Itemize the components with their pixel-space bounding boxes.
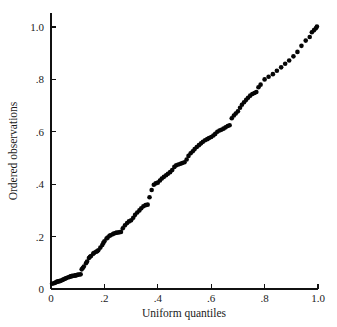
y-tick-label: .2 [36, 231, 44, 243]
data-point [266, 74, 271, 79]
plot-axes [51, 13, 318, 289]
qq-plot-figure: 0.2.4.6.81.0 0.2.4.6.81.0 Uniform quanti… [0, 0, 337, 327]
y-axis-ticks [51, 27, 56, 237]
data-point [279, 65, 284, 70]
x-axis-title: Uniform quantiles [142, 307, 227, 320]
data-point [291, 54, 296, 59]
data-point [315, 24, 320, 29]
data-point [147, 195, 152, 200]
data-point [295, 50, 300, 55]
y-tick-label: .4 [36, 178, 45, 190]
y-axis-title: Ordered observations [7, 101, 19, 200]
data-point [78, 272, 83, 277]
y-tick-label: 0 [39, 283, 45, 295]
x-axis-ticks [51, 284, 318, 289]
x-tick-label: 1.0 [311, 292, 325, 304]
y-tick-label: 1.0 [30, 21, 44, 33]
data-point [145, 202, 150, 207]
x-tick-label: .2 [100, 292, 108, 304]
y-axis-tick-labels: 0.2.4.6.81.0 [30, 21, 44, 295]
data-point [258, 82, 263, 87]
x-tick-label: .6 [207, 292, 216, 304]
data-point [271, 72, 276, 77]
y-tick-label: .8 [36, 73, 45, 85]
data-point [275, 68, 280, 73]
x-tick-label: .4 [154, 292, 163, 304]
x-tick-label: .8 [260, 292, 269, 304]
data-point [303, 38, 308, 43]
data-point [283, 61, 288, 66]
data-point [262, 77, 267, 82]
data-point [254, 90, 259, 95]
data-point [299, 44, 304, 49]
data-point [287, 58, 292, 63]
data-point [307, 35, 312, 40]
scatter-plot-canvas: 0.2.4.6.81.0 0.2.4.6.81.0 Uniform quanti… [0, 0, 337, 327]
data-point [149, 188, 154, 193]
x-tick-label: 0 [48, 292, 54, 304]
x-axis-tick-labels: 0.2.4.6.81.0 [48, 292, 325, 304]
data-point [227, 123, 232, 128]
data-point-series [50, 24, 319, 286]
y-tick-label: .6 [36, 126, 45, 138]
